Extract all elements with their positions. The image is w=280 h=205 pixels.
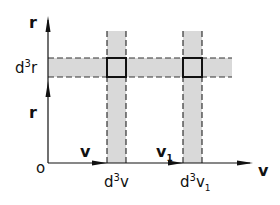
d3v-exponent: 3: [114, 172, 120, 183]
d3v1-prefix: d: [180, 173, 190, 191]
r-vector-label: r: [29, 105, 37, 121]
v1-subscript: 1: [166, 153, 172, 163]
d3v-var: v: [120, 173, 129, 191]
v1-vector-label: v1: [156, 144, 173, 160]
v-band: [107, 31, 126, 163]
d3v1-var: v: [196, 173, 205, 191]
horizontal-axis-arrowhead-icon: [237, 161, 253, 166]
d3r-var: r: [31, 59, 37, 77]
d3v-label: d3v: [104, 175, 129, 190]
r-axis-label: r: [29, 15, 37, 31]
d3v1-subscript: 1: [205, 183, 211, 193]
v1-band: [183, 31, 202, 163]
d3r-exponent: 3: [25, 58, 31, 69]
d3r-label: d3r: [15, 61, 37, 76]
r-vector-arrowhead-icon: [46, 81, 51, 97]
vertical-axis-arrowhead-icon: [46, 16, 51, 32]
v-vector-label: v: [80, 144, 90, 160]
d3v1-exponent: 3: [190, 172, 196, 183]
d3r-prefix: d: [15, 59, 25, 77]
v1-base: v: [156, 142, 166, 161]
v-vector-arrowhead-icon: [92, 161, 107, 166]
d3v-prefix: d: [104, 173, 114, 191]
r-band: [48, 58, 232, 77]
d3v1-label: d3v1: [180, 175, 211, 190]
v-axis-label: v: [258, 163, 268, 179]
origin-label: o: [36, 161, 45, 176]
